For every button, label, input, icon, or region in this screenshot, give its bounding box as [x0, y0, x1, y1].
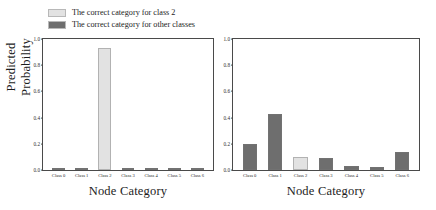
chart-legend: The correct category for class 2 The cor…: [48, 7, 195, 30]
chart-panel-right: 1.00.80.60.40.20.0 Class 0Class 1Class 2…: [232, 38, 420, 171]
x-tick-label: Class 2: [288, 173, 313, 178]
legend-item: The correct category for class 2: [48, 7, 195, 18]
legend-swatch-light-icon: [48, 9, 66, 17]
x-tick-label: Class 0: [237, 173, 262, 178]
x-tick-label: Class 4: [140, 173, 163, 178]
x-tick-label: Class 2: [93, 173, 116, 178]
legend-item-label: The correct category for other classes: [72, 20, 195, 30]
bar-slot: [288, 39, 313, 170]
bar-slot: [47, 39, 70, 170]
x-axis-title-left: Node Category: [42, 184, 214, 199]
plot-area-right: 1.00.80.60.40.20.0 Class 0Class 1Class 2…: [232, 38, 420, 171]
x-axis-ticks-right: Class 0Class 1Class 2Class 3Class 4Class…: [233, 170, 419, 178]
bar: [293, 157, 307, 170]
x-tick-label: Class 1: [262, 173, 287, 178]
x-tick-label: Class 6: [390, 173, 415, 178]
bar: [319, 158, 333, 170]
bar-group-left: [43, 39, 213, 170]
x-tick-label: Class 1: [70, 173, 93, 178]
bar-slot: [262, 39, 287, 170]
x-axis-title-right: Node Category: [232, 184, 420, 199]
bar-slot: [163, 39, 186, 170]
bar-slot: [364, 39, 389, 170]
x-tick-label: Class 0: [47, 173, 70, 178]
bar-slot: [339, 39, 364, 170]
bar: [268, 114, 282, 170]
bar-slot: [186, 39, 209, 170]
x-tick-label: Class 5: [163, 173, 186, 178]
bar: [98, 48, 111, 170]
chart-panel-left: 1.00.80.60.40.20.0 Class 0Class 1Class 2…: [42, 38, 214, 171]
bar-slot: [116, 39, 139, 170]
x-tick-label: Class 4: [339, 173, 364, 178]
x-tick-label: Class 3: [313, 173, 338, 178]
bar-group-right: [233, 39, 419, 170]
x-axis-ticks-left: Class 0Class 1Class 2Class 3Class 4Class…: [43, 170, 213, 178]
bar: [243, 144, 257, 170]
legend-item-label: The correct category for class 2: [72, 8, 175, 18]
bar-slot: [70, 39, 93, 170]
legend-item: The correct category for other classes: [48, 19, 195, 30]
bar-slot: [390, 39, 415, 170]
y-axis-title: Predicted Probability: [4, 12, 34, 122]
bar-slot: [93, 39, 116, 170]
x-tick-label: Class 3: [116, 173, 139, 178]
legend-swatch-dark-icon: [48, 21, 66, 29]
bar-slot: [313, 39, 338, 170]
plot-area-left: 1.00.80.60.40.20.0 Class 0Class 1Class 2…: [42, 38, 214, 171]
bar-slot: [140, 39, 163, 170]
bar: [395, 152, 409, 170]
bar-slot: [237, 39, 262, 170]
x-tick-label: Class 6: [186, 173, 209, 178]
x-tick-label: Class 5: [364, 173, 389, 178]
